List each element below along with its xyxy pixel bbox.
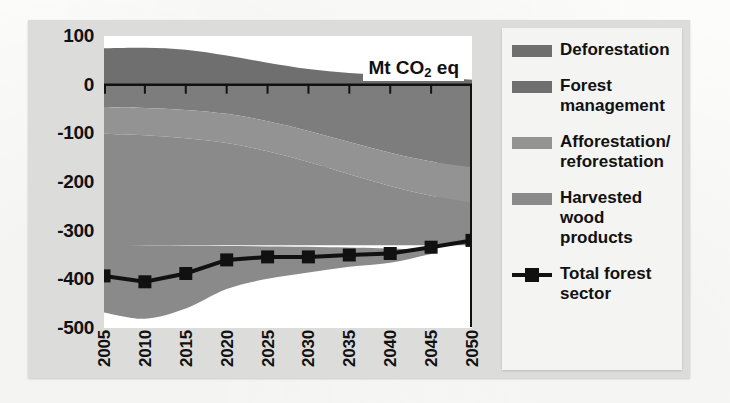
- legend-swatch-icon: [512, 137, 552, 149]
- x-axis-tick-2015: 2015: [177, 330, 197, 367]
- data-point-marker: [138, 275, 151, 288]
- x-axis-tick-2035: 2035: [340, 330, 360, 367]
- x-axis-tick-2040: 2040: [381, 330, 401, 367]
- legend-item-harvested-wood-products[interactable]: Harvested wood products: [512, 188, 676, 248]
- y-axis-tick-minus300: -300: [57, 220, 94, 242]
- x-axis-tick-2030: 2030: [299, 330, 319, 367]
- x-axis-tick-2050: 2050: [463, 330, 483, 367]
- legend-label: Harvested wood products: [560, 188, 676, 248]
- units-annotation: Mt CO2 eq: [363, 56, 464, 81]
- data-point-marker: [384, 247, 397, 260]
- x-axis-tick-2045: 2045: [422, 330, 442, 367]
- x-axis-tick-2025: 2025: [259, 330, 279, 367]
- y-axis-tick-minus100: -100: [57, 122, 94, 144]
- chart-legend: DeforestationForest managementAfforestat…: [502, 28, 682, 370]
- x-axis-tick-2020: 2020: [218, 330, 238, 367]
- y-axis-tick-minus500: -500: [57, 317, 94, 339]
- data-point-marker: [220, 253, 233, 266]
- legend-label: Afforestation/ reforestation: [560, 132, 676, 172]
- data-point-marker: [466, 234, 473, 247]
- units-tail: eq: [432, 57, 459, 78]
- units-text: Mt CO: [368, 57, 424, 78]
- legend-label: Forest management: [560, 76, 676, 116]
- legend-item-afforestation-reforestation[interactable]: Afforestation/ reforestation: [512, 132, 676, 172]
- legend-item-deforestation[interactable]: Deforestation: [512, 40, 676, 60]
- legend-label: Deforestation: [560, 40, 670, 60]
- legend-line-marker-icon: [512, 267, 552, 283]
- legend-item-total-forest-sector[interactable]: Total forest sector: [512, 264, 676, 304]
- data-point-marker: [179, 267, 192, 280]
- data-point-marker: [261, 250, 274, 263]
- legend-item-forest-management[interactable]: Forest management: [512, 76, 676, 116]
- x-axis-tick-2005: 2005: [95, 330, 115, 367]
- data-point-marker: [343, 249, 356, 262]
- legend-swatch-icon: [512, 193, 552, 205]
- y-axis-tick-0: 0: [84, 74, 94, 96]
- x-axis-tick-labels: 2005201020152020202520302035204020452050: [104, 330, 472, 378]
- data-point-marker: [302, 250, 315, 263]
- units-subscript: 2: [424, 65, 431, 80]
- y-axis-tick-minus200: -200: [57, 171, 94, 193]
- y-axis-tick-100: 100: [63, 25, 94, 47]
- x-axis-tick-2010: 2010: [136, 330, 156, 367]
- legend-label: Total forest sector: [560, 264, 676, 304]
- y-axis-tick-minus400: -400: [57, 268, 94, 290]
- chart-area: 1000-100-200-300-400-500 Mt CO2 eq 20052…: [28, 20, 494, 378]
- plot-region: Mt CO2 eq: [104, 36, 472, 328]
- y-axis-tick-labels: 1000-100-200-300-400-500: [28, 20, 100, 320]
- data-point-marker: [104, 269, 111, 282]
- legend-swatch-icon: [512, 81, 552, 93]
- chart-panel: 1000-100-200-300-400-500 Mt CO2 eq 20052…: [28, 20, 690, 378]
- data-point-marker: [425, 241, 438, 254]
- legend-swatch-icon: [512, 45, 552, 57]
